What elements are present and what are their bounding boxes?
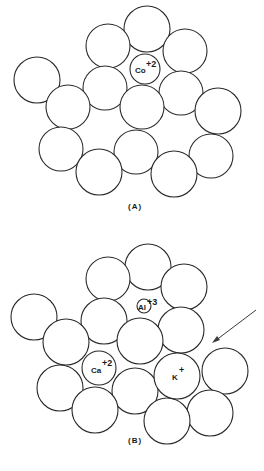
oxygen-atom	[161, 264, 207, 310]
oxygen-atom	[117, 318, 163, 364]
ca-ion-symbol: Ca	[91, 366, 102, 375]
arrow-line	[215, 310, 256, 341]
diagram-canvas: Co +2 (A) Al +3 Ca +2 K + (B)	[0, 0, 264, 471]
oxygen-atom	[202, 348, 248, 394]
al-ion-symbol: Al	[138, 303, 146, 312]
oxygen-atom	[144, 398, 190, 444]
oxygen-atom	[120, 85, 164, 129]
oxygen-atom	[86, 257, 130, 301]
panel-b-label: (B)	[128, 436, 142, 445]
oxygen-atom	[163, 29, 207, 73]
oxygen-atom	[151, 151, 197, 197]
al-ion-charge: +3	[147, 297, 157, 307]
oxygen-atom	[76, 149, 122, 195]
ca-ion-charge: +2	[102, 358, 112, 368]
arrow-head-icon	[212, 336, 220, 343]
co-ion-charge: +2	[146, 59, 156, 69]
oxygen-atom	[43, 319, 89, 365]
oxygen-atom	[72, 387, 118, 433]
k-ion-charge: +	[179, 365, 184, 375]
oxygen-atom	[187, 390, 233, 436]
oxygen-atom	[86, 24, 130, 68]
oxygen-atom	[39, 127, 83, 171]
oxygen-atom	[124, 6, 170, 52]
oxygen-atom	[158, 307, 204, 353]
panel-b: Al +3 Ca +2 K + (B)	[11, 244, 256, 445]
oxygen-atom	[195, 88, 241, 134]
oxygen-atom	[46, 85, 90, 129]
panel-a-label: (A)	[128, 202, 142, 211]
co-ion-symbol: Co	[135, 66, 146, 75]
panel-a: Co +2 (A)	[14, 6, 241, 211]
k-ion-symbol: K	[172, 373, 178, 382]
